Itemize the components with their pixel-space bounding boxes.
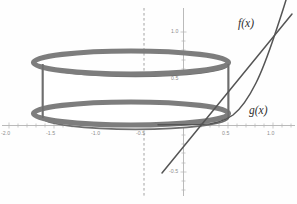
x-tick-label--0.5: -0.5	[136, 130, 145, 136]
g-curve-label: g(x)	[249, 104, 268, 116]
cylinder-solid	[34, 51, 229, 129]
y-tick-label-1.0: 1.0	[171, 28, 179, 34]
y-tick-label-0.5: 0.5	[171, 75, 179, 81]
chart-canvas	[0, 0, 297, 204]
x-tick-label--1.0: -1.0	[91, 130, 100, 136]
x-tick-label--1.5: -1.5	[46, 130, 55, 136]
revolution-solid-chart: -2.0 -1.5 -1.0 -0.5 0.5 1.0 1.0 0.5 -0.5…	[0, 0, 297, 204]
f-curve-label: f(x)	[238, 17, 254, 29]
y-tick-label--0.5: -0.5	[169, 168, 178, 174]
cylinder-top-ellipse	[34, 51, 229, 74]
x-tick-label-1.0: 1.0	[267, 130, 275, 136]
x-tick-label--2.0: -2.0	[1, 130, 10, 136]
x-tick-label-0.5: 0.5	[222, 130, 230, 136]
